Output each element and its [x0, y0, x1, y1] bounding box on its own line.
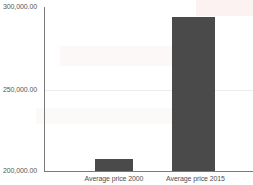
background-watermark-middle: [60, 46, 180, 66]
y-axis-tick-label-250000: 250,000.00: [0, 86, 40, 94]
x-axis-category-label-2015: Average price 2015: [153, 174, 238, 183]
x-axis-category-label-2000: Average price 2000: [74, 174, 154, 183]
y-axis-line: [44, 7, 45, 172]
bar-average-price-2015: [172, 17, 215, 171]
bar-chart: 300,000.00 250,000.00 200,000.00 Average…: [0, 0, 253, 185]
background-watermark-top-right: [196, 0, 253, 16]
bar-average-price-2000: [95, 159, 133, 171]
background-watermark-lower: [36, 108, 186, 124]
x-axis-line: [44, 171, 253, 172]
gridline-250000: [45, 90, 253, 91]
y-axis-tick-label-300000: 300,000.00: [0, 3, 40, 11]
y-axis-tick-label-200000: 200,000.00: [0, 167, 40, 175]
